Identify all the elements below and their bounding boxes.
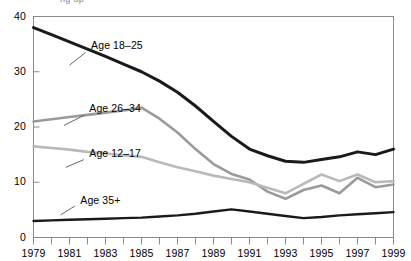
x-tick-label-1979: 1979 xyxy=(14,247,54,259)
line-chart-plot xyxy=(0,0,411,261)
y-tick-label-30: 30 xyxy=(2,65,26,77)
x-tick-label-1987: 1987 xyxy=(158,247,198,259)
x-tick-label-1999: 1999 xyxy=(374,247,411,259)
series-line-age-35- xyxy=(34,209,394,221)
series-line-age-18-25 xyxy=(34,28,394,163)
series-label-age-18-25: Age 18–25 xyxy=(91,39,143,51)
leader-line-age-18-25 xyxy=(70,52,86,65)
x-tick-label-1997: 1997 xyxy=(338,247,378,259)
leader-line-age-12-17 xyxy=(66,160,84,168)
y-tick-label-40: 40 xyxy=(2,10,26,22)
x-tick-label-1981: 1981 xyxy=(50,247,90,259)
chart-container: ng-up 010203040 197919811983198519871989… xyxy=(0,0,411,261)
series-label-age-12-17: Age 12–17 xyxy=(89,147,141,159)
y-tick-label-10: 10 xyxy=(2,175,26,187)
leader-lines-layer xyxy=(61,52,86,214)
y-tick-label-0: 0 xyxy=(2,231,26,243)
x-tick-label-1983: 1983 xyxy=(86,247,126,259)
series-layer xyxy=(34,28,394,221)
x-tick-label-1993: 1993 xyxy=(266,247,306,259)
x-tick-label-1995: 1995 xyxy=(302,247,342,259)
leader-line-age-35- xyxy=(61,206,75,215)
series-label-age-35-: Age 35+ xyxy=(80,194,120,206)
x-tick-label-1991: 1991 xyxy=(230,247,270,259)
x-tick-label-1985: 1985 xyxy=(122,247,162,259)
x-tick-label-1989: 1989 xyxy=(194,247,234,259)
series-label-age-26-34: Age 26–34 xyxy=(89,102,141,114)
y-tick-label-20: 20 xyxy=(2,120,26,132)
series-line-age-12-17 xyxy=(34,146,394,193)
